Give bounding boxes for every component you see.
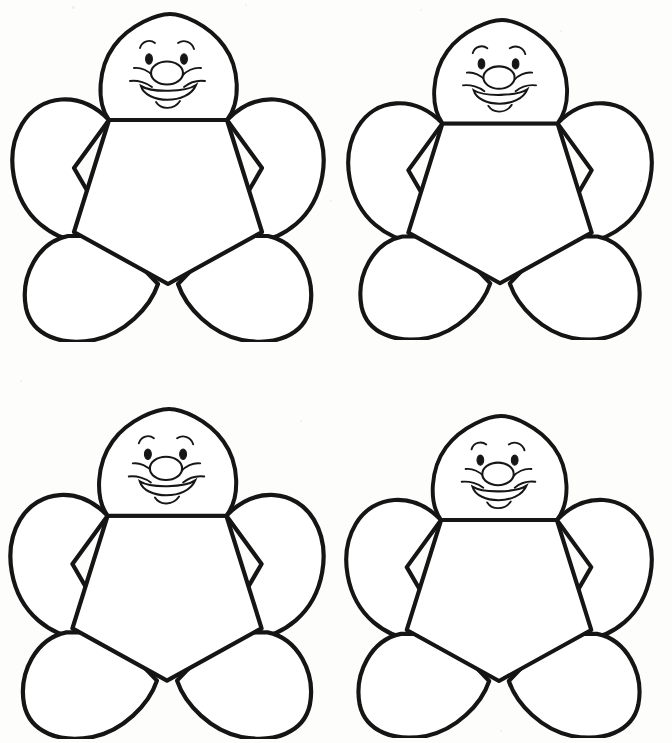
right-eye-icon: [181, 54, 188, 64]
scan-speck: [20, 380, 22, 382]
scan-speck: [245, 4, 247, 6]
flower-bottom-right[interactable]: [342, 412, 656, 738]
left-eye-icon: [144, 449, 151, 459]
nose-icon: [151, 62, 183, 85]
page-watermark: [657, 632, 671, 737]
left-eye-icon: [146, 54, 153, 64]
nose-icon: [482, 463, 513, 486]
right-eye-icon: [512, 59, 519, 69]
scan-speck: [420, 9, 422, 11]
scan-speck: [72, 6, 75, 9]
left-eye-icon: [477, 455, 484, 465]
flower-top-left[interactable]: [8, 10, 328, 342]
right-eye-icon: [511, 455, 518, 465]
worksheet-page: [0, 0, 672, 743]
left-eye-icon: [478, 59, 485, 69]
flower-top-right[interactable]: [344, 16, 656, 340]
flower-bottom-left[interactable]: [6, 405, 328, 739]
right-eye-icon: [180, 449, 187, 459]
nose-icon: [483, 66, 514, 88]
scan-speck: [330, 200, 332, 202]
nose-icon: [150, 457, 182, 480]
